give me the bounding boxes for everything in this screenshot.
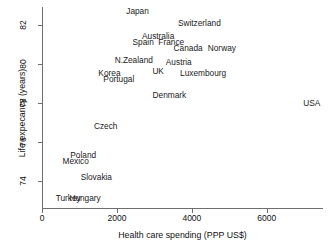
data-point-label: Slovakia bbox=[81, 173, 112, 181]
data-point-label: Spain bbox=[133, 38, 154, 46]
x-tick-label: 2000 bbox=[107, 213, 126, 223]
y-tick-mark bbox=[38, 142, 42, 143]
data-point-label: Mexico bbox=[63, 157, 89, 165]
data-point-label: N.Zealand bbox=[115, 56, 153, 64]
y-axis-title: Life expecancy (years) bbox=[17, 48, 27, 178]
y-tick-mark bbox=[38, 103, 42, 104]
plot-area: 7476788082 0200040006000 Life expecancy … bbox=[0, 0, 329, 248]
data-point-label: Hungary bbox=[69, 194, 100, 202]
data-point-label: Switzerland bbox=[178, 18, 221, 26]
data-point-label: UK bbox=[152, 67, 164, 75]
x-tick-label: 4000 bbox=[182, 213, 201, 223]
data-point-label: USA bbox=[303, 98, 320, 106]
x-axis-title: Health care spending (PPP US$) bbox=[42, 230, 323, 240]
data-point-label: Czech bbox=[94, 122, 118, 130]
scatter-chart: 7476788082 0200040006000 Life expecancy … bbox=[0, 0, 329, 248]
x-tick-label: 6000 bbox=[257, 213, 276, 223]
x-axis-line bbox=[42, 208, 323, 209]
y-tick-mark bbox=[38, 25, 42, 26]
y-tick-label: 82 bbox=[18, 14, 28, 36]
data-point-label: Denmark bbox=[153, 91, 187, 99]
data-point-label: Canada bbox=[174, 44, 203, 52]
x-tick-label: 0 bbox=[40, 213, 45, 223]
data-point-label: Norway bbox=[208, 44, 236, 52]
data-point-label: Luxembourg bbox=[180, 69, 226, 77]
data-point-label: Austria bbox=[166, 57, 192, 65]
y-axis-line bbox=[42, 7, 43, 209]
y-tick-mark bbox=[38, 64, 42, 65]
y-tick-mark bbox=[38, 181, 42, 182]
data-point-label: Japan bbox=[126, 7, 149, 15]
data-point-label: Portugal bbox=[103, 75, 134, 83]
